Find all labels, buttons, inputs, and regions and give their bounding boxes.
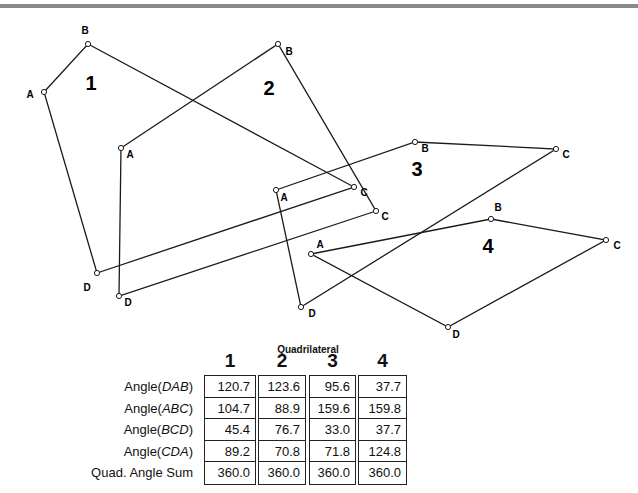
- vertex-point-a: [308, 251, 313, 256]
- vertex-label-d: D: [83, 282, 90, 293]
- vertex-label-a: A: [280, 192, 287, 203]
- column-2-values: 123.6 88.9 76.7 70.8 360.0: [258, 375, 306, 485]
- vertex-label-c: C: [613, 240, 620, 251]
- column-header-4: 4: [358, 350, 407, 372]
- vertex-label-a: A: [26, 89, 33, 100]
- cell-4-abc: 159.8: [359, 398, 406, 420]
- quadrilaterals-group: ABCD1ABCD2ABCD3ABCD4: [26, 25, 620, 340]
- column-header-1: 1: [204, 350, 256, 372]
- vertex-label-b: B: [494, 202, 501, 213]
- vertex-point-c: [373, 208, 378, 213]
- quadrilateral-4: ABCD4: [308, 202, 620, 340]
- cell-2-cda: 70.8: [259, 441, 305, 463]
- cell-2-sum: 360.0: [259, 462, 305, 484]
- vertex-point-d: [94, 270, 99, 275]
- row-label-abc: Angle(ABC): [124, 398, 193, 419]
- vertex-point-d: [116, 293, 121, 298]
- column-4-values: 37.7 159.8 37.7 124.8 360.0: [358, 375, 407, 485]
- row-label-angle-sum: Quad. Angle Sum: [91, 462, 193, 483]
- vertex-point-b: [275, 41, 280, 46]
- quadrilateral-3: ABCD3: [273, 139, 569, 319]
- row-label-dab: Angle(DAB): [124, 376, 193, 397]
- row-label-cda: Angle(CDA): [124, 441, 193, 462]
- quadrilateral-number-label: 2: [263, 77, 274, 99]
- cell-1-sum: 360.0: [205, 462, 255, 484]
- vertex-point-c: [553, 146, 558, 151]
- quadrilateral-number-label: 4: [482, 235, 494, 257]
- column-header-3: 3: [309, 350, 356, 372]
- vertex-point-b: [85, 41, 90, 46]
- vertex-label-a: A: [316, 239, 323, 250]
- vertex-label-b: B: [81, 25, 88, 36]
- vertex-point-b: [412, 139, 417, 144]
- vertex-label-a: A: [126, 149, 133, 160]
- vertex-label-b: B: [285, 46, 292, 57]
- column-header-2: 2: [258, 350, 306, 372]
- cell-2-dab: 123.6: [259, 376, 305, 398]
- vertex-point-b: [488, 216, 493, 221]
- vertex-point-c: [603, 237, 608, 242]
- cell-4-cda: 124.8: [359, 441, 406, 463]
- cell-3-sum: 360.0: [310, 462, 355, 484]
- vertex-label-c: C: [562, 149, 569, 160]
- cell-1-bcd: 45.4: [205, 419, 255, 441]
- row-label-bcd: Angle(BCD): [124, 419, 193, 440]
- cell-2-bcd: 76.7: [259, 419, 305, 441]
- quadrilateral-diagram: ABCD1ABCD2ABCD3ABCD4: [0, 0, 638, 340]
- vertex-point-d: [298, 304, 303, 309]
- vertex-point-c: [351, 184, 356, 189]
- cell-3-dab: 95.6: [310, 376, 355, 398]
- cell-1-dab: 120.7: [205, 376, 255, 398]
- cell-3-bcd: 33.0: [310, 419, 355, 441]
- quadrilateral-number-label: 1: [85, 72, 96, 94]
- cell-4-dab: 37.7: [359, 376, 406, 398]
- vertex-point-d: [445, 324, 450, 329]
- quadrilateral-number-label: 3: [411, 158, 422, 180]
- vertex-label-d: D: [124, 297, 131, 308]
- cell-3-abc: 159.6: [310, 398, 355, 420]
- vertex-label-d: D: [308, 308, 315, 319]
- cell-1-abc: 104.7: [205, 398, 255, 420]
- cell-4-bcd: 37.7: [359, 419, 406, 441]
- vertex-point-a: [273, 187, 278, 192]
- column-3-values: 95.6 159.6 33.0 71.8 360.0: [309, 375, 356, 485]
- vertex-label-c: C: [381, 211, 388, 222]
- cell-1-cda: 89.2: [205, 441, 255, 463]
- column-1-values: 120.7 104.7 45.4 89.2 360.0: [204, 375, 256, 485]
- vertex-point-a: [41, 89, 46, 94]
- vertex-label-c: C: [360, 187, 367, 198]
- cell-2-abc: 88.9: [259, 398, 305, 420]
- cell-3-cda: 71.8: [310, 441, 355, 463]
- vertex-point-a: [118, 145, 123, 150]
- vertex-label-b: B: [421, 143, 428, 154]
- vertex-label-d: D: [452, 329, 459, 340]
- cell-4-sum: 360.0: [359, 462, 406, 484]
